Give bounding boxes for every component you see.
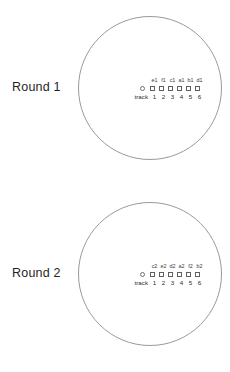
track-word-label: track [127,278,148,288]
lane-box-cell [148,272,157,277]
lane-square-icon [177,86,182,91]
lane-square-icon [168,86,173,91]
lane-number: 1 [150,92,159,102]
lane-number: 3 [168,278,177,288]
track-marker-icon [140,272,145,277]
round-1-panel: Round 1 e1 f1 c1 a1 b1 d1 track [0,0,230,186]
lane-square-icon [186,86,191,91]
lane-box-cell [148,86,157,91]
lane-square-icon [195,272,200,277]
lane-square-icon [168,272,173,277]
lane-number: 5 [186,92,195,102]
lane-number: 3 [168,92,177,102]
lane-box-row-round-1 [148,86,202,91]
lane-square-icon [159,86,164,91]
round-2-panel: Round 2 c2 e2 d2 a2 f2 b2 track [0,186,230,372]
lane-square-icon [159,272,164,277]
lane-square-icon [150,272,155,277]
round-1-label: Round 1 [12,80,78,94]
lane-number: 4 [177,92,186,102]
lane-square-icon [177,272,182,277]
lane-box-cell [184,272,193,277]
lane-number-row-round-2: 1 2 3 4 5 6 [150,278,204,288]
lane-square-icon [186,272,191,277]
lane-box-cell [166,86,175,91]
track-word-label: track [127,92,148,102]
lane-box-cell [184,86,193,91]
lane-box-cell [175,272,184,277]
lane-box-cell [166,272,175,277]
lane-box-row-round-2 [148,272,202,277]
track-cluster-round-2: c2 e2 d2 a2 f2 b2 track 1 2 3 [127,262,219,292]
lane-number: 4 [177,278,186,288]
lane-square-icon [150,86,155,91]
lane-number: 6 [195,278,204,288]
lane-number: 2 [159,278,168,288]
lane-box-cell [157,86,166,91]
lane-number: 5 [186,278,195,288]
lane-number: 2 [159,92,168,102]
lane-box-cell [175,86,184,91]
lane-box-cell [193,86,202,91]
lane-number: 6 [195,92,204,102]
track-marker-icon [140,86,145,91]
lane-square-icon [195,86,200,91]
number-row-round-1: track 1 2 3 4 5 6 [127,92,204,102]
track-cluster-round-1: e1 f1 c1 a1 b1 d1 track 1 2 3 [127,76,219,106]
lane-number: 1 [150,278,159,288]
lane-box-cell [193,272,202,277]
number-row-round-2: track 1 2 3 4 5 6 [127,278,204,288]
round-2-label: Round 2 [12,266,78,280]
lane-box-cell [157,272,166,277]
lane-number-row-round-1: 1 2 3 4 5 6 [150,92,204,102]
